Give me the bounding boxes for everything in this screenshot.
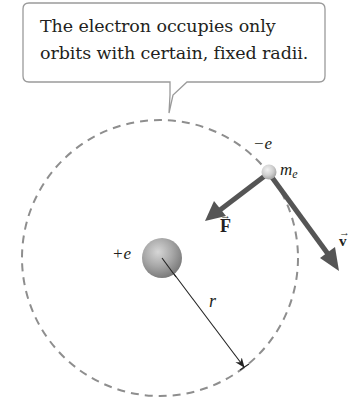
velocity-vector-arrow [271,176,339,271]
mass-symbol: m [280,160,292,179]
mass-subscript: e [292,167,297,181]
vector-arrow-icon: → [220,210,231,220]
callout-line-2: orbits with certain, fixed radii. [40,40,320,67]
velocity-vector-label: → v [339,233,347,250]
vector-arrow-icon: → [339,227,347,237]
electron-mass-label: me [280,160,298,182]
electron [262,165,277,180]
callout-text: The electron occupies only orbits with c… [40,13,320,67]
force-vector-arrow [205,175,266,221]
callout-line-1: The electron occupies only [40,13,320,40]
radius-label: r [209,291,216,312]
force-vector-label: → F [220,216,231,237]
electron-charge-label: −e [253,134,272,154]
radius-tick [240,364,249,370]
nucleus-charge-label: +e [112,244,131,264]
